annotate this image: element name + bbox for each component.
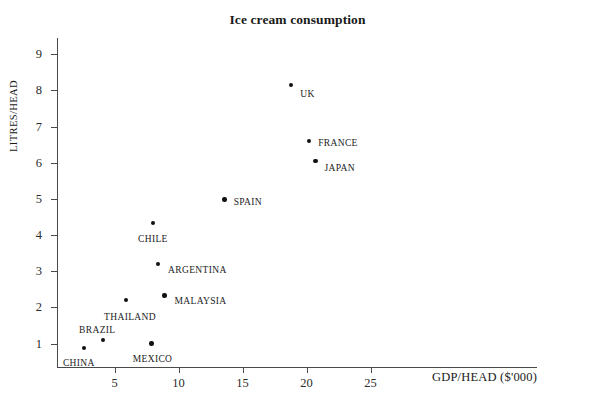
x-axis-title: GDP/HEAD ($'000) [432,370,537,385]
y-tick-label: 9 [36,47,42,62]
data-point-label: FRANCE [318,138,358,148]
x-tick-label: 5 [111,376,117,391]
data-point [149,341,154,346]
data-point [156,262,161,267]
data-point-label: MEXICO [133,354,173,364]
data-point [101,338,106,343]
data-point [162,293,167,298]
data-point [124,298,129,303]
y-tick: 1 [51,344,57,345]
y-axis-title-text: LITRES/HEAD [8,80,19,152]
y-tick-label: 2 [36,300,42,315]
data-point-label: SPAIN [234,197,262,207]
y-tick-label: 3 [36,264,42,279]
y-tick: 9 [51,54,57,55]
y-axis-title: LITRES/HEAD [8,80,19,152]
data-point [82,346,87,351]
data-point-label: JAPAN [325,163,355,173]
data-point-label: CHINA [63,358,95,368]
y-tick: 7 [51,127,57,128]
data-point [222,197,227,202]
x-tick [243,367,244,373]
chart-figure: Ice cream consumption LITRES/HEAD GDP/HE… [0,0,595,403]
x-tick [179,367,180,373]
y-tick-label: 1 [36,336,42,351]
y-axis-line [57,38,58,368]
x-tick [307,367,308,373]
x-tick [115,367,116,373]
data-point-label: MALAYSIA [175,296,227,306]
y-tick: 2 [51,307,57,308]
data-point [151,221,156,226]
data-point-label: CHILE [138,234,168,244]
x-tick [371,367,372,373]
data-point-label: THAILAND [104,312,156,322]
y-tick: 4 [51,235,57,236]
y-tick: 6 [51,163,57,164]
data-point-label: BRAZIL [79,325,115,335]
y-tick-label: 7 [36,119,42,134]
y-tick: 5 [51,199,57,200]
y-tick-label: 8 [36,83,42,98]
x-tick-label: 25 [364,376,377,391]
chart-title: Ice cream consumption [0,12,595,28]
data-point-label: ARGENTINA [168,265,227,275]
data-point-label: UK [300,89,314,99]
x-tick-label: 15 [236,376,249,391]
data-point [313,159,318,164]
x-tick-label: 10 [172,376,185,391]
y-tick: 3 [51,271,57,272]
data-point [307,139,312,144]
x-axis-line [57,367,537,368]
y-tick-label: 6 [36,155,42,170]
x-tick-label: 20 [300,376,313,391]
y-tick-label: 4 [36,228,42,243]
data-point [289,83,294,88]
y-tick-label: 5 [36,191,42,206]
plot-area: 123456789 510152025 UKFRANCEJAPANSPAINCH… [57,38,537,368]
y-tick: 8 [51,90,57,91]
